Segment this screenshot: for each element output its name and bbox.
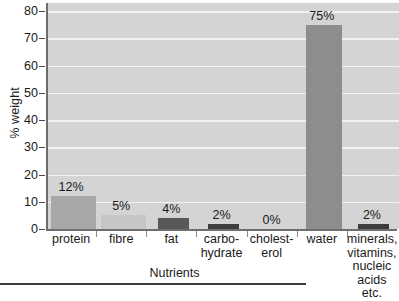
y-axis-tick-mark (39, 38, 45, 39)
x-axis-category-label: fat (146, 233, 196, 247)
x-axis-category-label: fibre (96, 233, 146, 247)
y-axis-tick-mark (39, 66, 45, 67)
x-axis-line (46, 229, 397, 231)
x-axis-category-label: cholest-erol (247, 233, 297, 260)
x-axis-category-label-line: fat (146, 233, 196, 247)
x-axis-category-label-line: nucleic (347, 260, 397, 274)
x-axis-category-label: carbo-hydrate (196, 233, 246, 260)
x-axis-category-label-line: acids etc. (347, 274, 397, 301)
y-axis-tick-label: 70 (4, 32, 38, 45)
bar-value-label: 12% (41, 181, 101, 194)
y-axis-tick-label: 50 (4, 87, 38, 100)
gridline (48, 93, 399, 95)
x-axis-category-label-line: vitamins, (347, 247, 397, 261)
x-axis-category-label-line: minerals, (347, 233, 397, 247)
bar (306, 25, 342, 229)
gridline (48, 147, 399, 149)
gridline (48, 38, 399, 40)
x-axis-category-label-line: cholest- (247, 233, 297, 247)
y-axis-tick-label: 20 (4, 168, 38, 181)
x-axis-category-label-line: carbo- (196, 233, 246, 247)
gridline (48, 120, 399, 122)
bottom-rule-divider (0, 283, 306, 285)
y-axis-tick-label: 80 (4, 5, 38, 18)
y-axis-tick-label: 0 (4, 223, 38, 236)
y-axis-tick-mark (39, 93, 45, 94)
y-axis-tick-mark (39, 147, 45, 148)
y-axis-tick-mark (39, 202, 45, 203)
bar (51, 196, 96, 229)
bar (158, 218, 189, 229)
x-axis-category-label-line: fibre (96, 233, 146, 247)
x-axis-category-label: protein (46, 233, 96, 247)
y-axis-tick-label: 40 (4, 114, 38, 127)
x-axis-category-label-line: hydrate (196, 247, 246, 261)
x-axis-category-label: water (297, 233, 347, 247)
bar-value-label: 2% (342, 209, 399, 222)
y-axis-tick-mark (39, 120, 45, 121)
y-axis-tick-mark (39, 175, 45, 176)
y-axis-tick-label: 10 (4, 196, 38, 209)
gridline (48, 66, 399, 68)
bar-value-label: 0% (242, 214, 302, 227)
y-axis-tick-label: 60 (4, 59, 38, 72)
x-axis-category-label-line: water (297, 233, 347, 247)
x-axis-category-label: minerals,vitamins,nucleicacids etc. (347, 233, 397, 301)
y-axis-tick-mark (39, 229, 45, 230)
bar (101, 215, 146, 229)
gridline (48, 175, 399, 177)
y-axis-tick-labels: 80706050403020100 (4, 0, 38, 289)
plot-area (46, 3, 399, 229)
y-axis-tick-label: 30 (4, 141, 38, 154)
x-axis-title: Nutrients (46, 266, 303, 280)
y-axis-tick-mark (39, 11, 45, 12)
bar-value-label: 75% (292, 10, 352, 23)
x-axis-category-label-line: protein (46, 233, 96, 247)
x-axis-category-label-line: erol (247, 247, 297, 261)
